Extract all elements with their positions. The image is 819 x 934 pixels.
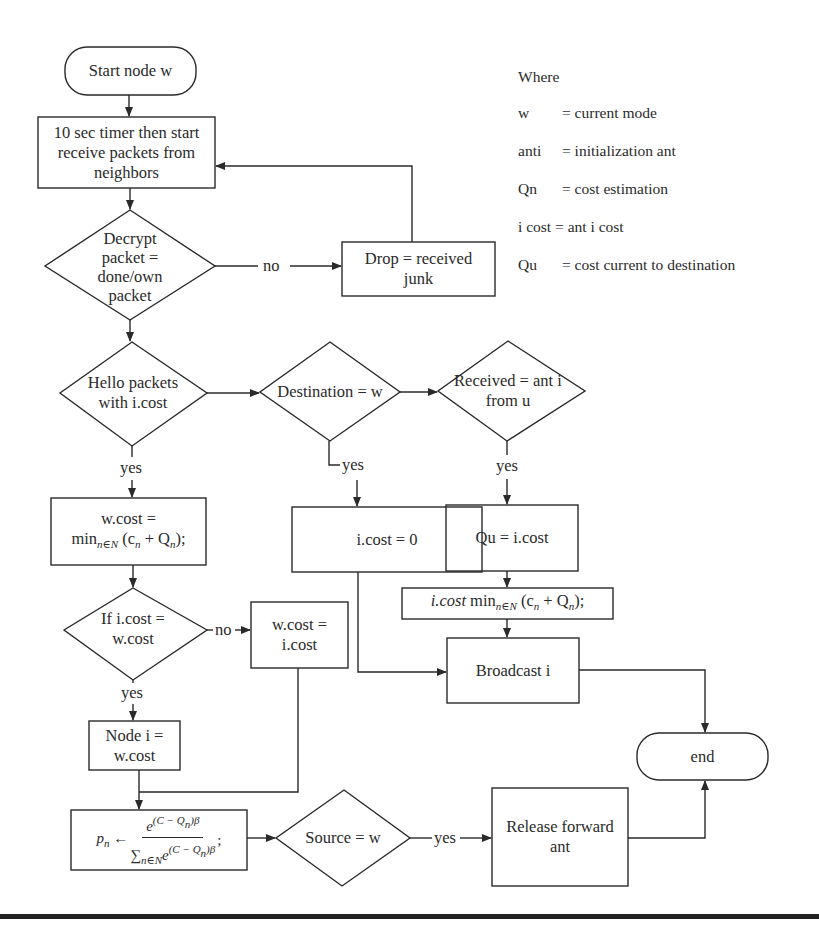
wcost-icost-box-label: w.cost = i.cost [251, 602, 348, 668]
legend-entry: Qu= cost current to destination [518, 256, 735, 294]
destination-decision-label: Destination = w [262, 382, 398, 402]
edge-drop-timer [216, 166, 412, 242]
decrypt-decision-label: Decrypt packet = done/own packet [80, 224, 180, 310]
edge-label-hello-yes: yes [118, 459, 144, 477]
bottom-rule-divider [0, 914, 819, 919]
legend: Where w= current mode anti= initializati… [518, 68, 735, 294]
legend-entry: anti= initialization ant [518, 142, 735, 180]
edge-label-source-yes: yes [432, 829, 458, 847]
broadcast-box-label: Broadcast i [447, 638, 579, 703]
if-cost-decision-label: If i.cost = w.cost [84, 608, 182, 650]
start-node-label: Start node w [65, 47, 196, 95]
pn-fraction: e(C − Qn)β ∑n∈Ne(C − Qn)β [130, 810, 215, 870]
legend-title: Where [518, 68, 735, 86]
legend-entry: w= current mode [518, 104, 735, 142]
wcost-min-box-label: w.cost = minn∈N (cn + Qn); [51, 498, 206, 565]
drop-box-label: Drop = received junk [342, 242, 495, 296]
legend-entry: Qn= cost estimation [518, 180, 735, 218]
release-box-label: Release forward ant [492, 788, 628, 886]
hello-decision-label: Hello packets with i.cost [72, 372, 194, 414]
edge-label-if-no: no [213, 621, 234, 639]
end-node-label: end [637, 733, 768, 780]
source-decision-label: Source = w [290, 828, 396, 848]
timer-box-label: 10 sec timer then start receive packets … [38, 117, 215, 188]
legend-entry: i cost = ant i cost [518, 218, 735, 256]
edge-icostzero-broadcast [358, 572, 446, 672]
received-decision-label: Received = ant i from u [446, 370, 570, 412]
edge-label-decrypt-no: no [261, 257, 282, 275]
edge-label-destination-yes: yes [340, 456, 366, 474]
node-i-box-label: Node i = w.cost [89, 721, 180, 770]
edge-label-received-yes: yes [494, 457, 520, 475]
icost-min-box-label: i.cost minn∈N (cn + Qn); [402, 588, 613, 619]
pn-box-label: pn ← e(C − Qn)β ∑n∈Ne(C − Qn)β ; [71, 810, 247, 870]
qu-box-label: Qu = i.cost [446, 505, 578, 571]
edge-broadcast-end [579, 670, 705, 732]
wcost-min-line1: w.cost = [101, 509, 156, 529]
wcost-min-line2: minn∈N (cn + Qn); [71, 529, 185, 554]
edge-destination-yes-a [329, 441, 340, 465]
edge-release-end [628, 781, 705, 838]
edge-label-if-yes: yes [119, 684, 145, 702]
